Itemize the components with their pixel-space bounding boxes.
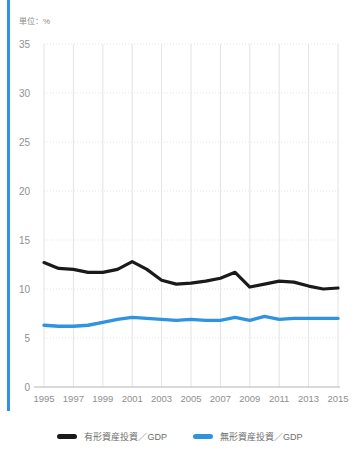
x-tick-label: 2015 [327,393,348,404]
legend-swatch-intangible [193,434,213,439]
chart-legend: 有形資産投資／GDP 無形資産投資／GDP [0,430,360,443]
y-tick-label: 25 [19,137,31,148]
y-tick-label: 10 [19,284,31,295]
y-tick-label: 15 [19,235,31,246]
x-tick-label: 2013 [298,393,319,404]
y-tick-label: 30 [19,88,31,99]
x-tick-label: 2001 [122,393,143,404]
x-gridlines [44,44,338,387]
x-tick-label: 1999 [92,393,113,404]
x-tick-label: 1995 [33,393,54,404]
plot-area: 05101520253035 1995199719992001200320052… [0,0,360,460]
legend-label-tangible: 有形資産投資／GDP [84,430,167,443]
y-tick-label: 35 [19,39,31,50]
x-tick-label: 2005 [180,393,201,404]
legend-swatch-tangible [57,434,77,439]
y-gridlines [44,44,340,338]
x-tick-label: 2007 [210,393,231,404]
x-tick-label: 2003 [151,393,172,404]
legend-item-tangible: 有形資産投資／GDP [57,430,167,443]
legend-item-intangible: 無形資産投資／GDP [193,430,303,443]
y-tick-label: 0 [24,382,30,393]
y-axis-tick-labels: 05101520253035 [19,39,31,393]
y-tick-label: 20 [19,186,31,197]
y-tick-label: 5 [24,333,30,344]
x-tick-label: 2009 [239,393,260,404]
x-axis-tick-labels: 1995199719992001200320052007200920112013… [33,393,348,404]
legend-label-intangible: 無形資産投資／GDP [220,430,303,443]
chart-figure: 単位：% 05101520253035 19951997199920012003… [0,0,360,460]
x-tick-label: 1997 [63,393,84,404]
x-tick-label: 2011 [269,393,289,404]
line-chart-svg: 05101520253035 1995199719992001200320052… [0,0,360,460]
